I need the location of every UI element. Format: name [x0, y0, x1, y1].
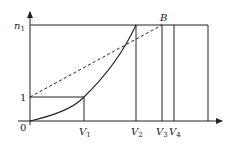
point-B-label: B — [159, 12, 167, 23]
v1-label: V1 — [79, 126, 91, 139]
v2-label: V2 — [131, 126, 143, 139]
n1-label: n1 — [14, 20, 25, 33]
diagram: 0 1 n1 B V1 V2 V3 V4 — [0, 0, 231, 144]
dashed-line-to-B — [30, 25, 162, 97]
origin-label: 0 — [20, 122, 26, 133]
isotherm-curve — [30, 25, 136, 121]
v4-label: V4 — [169, 126, 181, 139]
one-label: 1 — [20, 92, 26, 103]
v3-label: V3 — [156, 126, 168, 139]
